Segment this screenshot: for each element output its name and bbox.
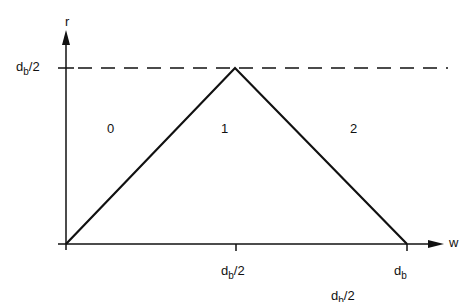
stray-label: db/2: [331, 289, 355, 302]
region-label-2: 2: [350, 122, 357, 135]
x-axis-label: w: [449, 236, 458, 249]
x-tick-label-half: db/2: [221, 264, 245, 277]
region-label-1: 1: [221, 122, 228, 135]
triangle-curve: [66, 68, 407, 244]
y-axis-arrow-icon: [62, 30, 70, 45]
region-label-0: 0: [107, 122, 114, 135]
y-tick-label: db/2: [16, 60, 40, 73]
diagram-canvas: [0, 0, 471, 302]
y-axis-label: r: [65, 15, 69, 28]
x-axis-arrow-icon: [428, 240, 444, 248]
x-tick-label-full: db: [394, 264, 407, 277]
